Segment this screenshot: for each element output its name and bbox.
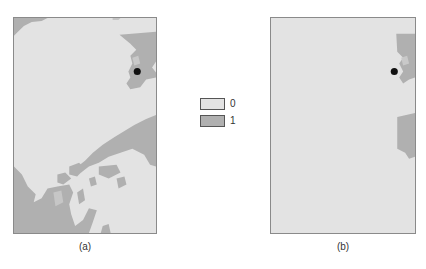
classified-raster-b xyxy=(271,18,415,233)
classified-raster-a xyxy=(14,18,156,233)
legend: 0 1 xyxy=(200,95,236,129)
map-panel-a xyxy=(13,17,157,234)
panel-caption-b: (b) xyxy=(323,241,363,252)
legend-label-1: 1 xyxy=(230,115,236,126)
panel-caption-a: (a) xyxy=(65,241,105,252)
legend-label-0: 0 xyxy=(230,98,236,109)
legend-item-0: 0 xyxy=(200,95,236,112)
marker-point-a xyxy=(134,68,141,75)
legend-item-1: 1 xyxy=(200,112,236,129)
marker-point-b xyxy=(391,68,398,75)
legend-swatch-0 xyxy=(200,98,225,110)
legend-swatch-1 xyxy=(200,115,225,127)
map-panel-b xyxy=(270,17,416,234)
